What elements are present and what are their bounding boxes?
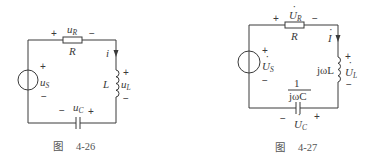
inductor-voltage-label: UL: [345, 66, 357, 80]
circuit-diagrams: + uS − + uR − R i L + uL − −: [0, 0, 372, 165]
source-minus: −: [41, 91, 47, 102]
resistor: + · UR − R: [273, 0, 318, 42]
figure-4-26: + uS − + uR − R i L + uL − −: [18, 23, 131, 152]
inductor: jωL + · UL −: [316, 51, 357, 90]
resistor-minus: −: [89, 28, 95, 39]
capacitor: − uC +: [59, 101, 94, 129]
inductor-impedance: jωL: [316, 64, 334, 76]
current-arrow-icon: [114, 50, 119, 57]
inductor-minus: −: [123, 93, 129, 104]
caption-prefix: 图: [53, 141, 63, 152]
inductor-plus: +: [123, 67, 129, 78]
inductor-coil-icon: [116, 70, 119, 97]
inductor-coil-icon: [338, 57, 341, 82]
resistor-plus: +: [273, 13, 279, 24]
source-label: US: [262, 60, 274, 74]
capacitor-voltage-label: uC: [73, 101, 85, 115]
capacitor-impedance-numerator: 1: [294, 77, 300, 89]
capacitor: 1 jωC − · UC +: [280, 77, 320, 132]
inductor-name: L: [102, 78, 109, 90]
current-indicator: i: [106, 47, 119, 59]
figure-4-27: + · US − + · UR − R · I jωL + · UL −: [238, 0, 357, 153]
capacitor-voltage-label: UC: [294, 118, 308, 132]
caption-number: 4-27: [298, 142, 317, 153]
caption-prefix: 图: [275, 142, 285, 153]
source-label: uS: [40, 76, 50, 90]
capacitor-minus: −: [280, 113, 286, 124]
capacitor-minus: −: [59, 105, 65, 116]
current-arrow-icon: [336, 35, 341, 42]
capacitor-impedance-denominator: jωC: [288, 90, 307, 102]
inductor-minus: −: [346, 79, 352, 90]
caption-number: 4-26: [76, 141, 95, 152]
voltage-source: + · US −: [238, 45, 274, 86]
resistor-icon: [63, 37, 82, 43]
capacitor-plus: +: [314, 111, 320, 122]
source-plus: +: [40, 61, 46, 72]
current-label: i: [106, 47, 109, 59]
resistor-minus: −: [312, 13, 318, 24]
resistor-name: R: [290, 30, 298, 42]
resistor-voltage-label: UR: [289, 9, 302, 23]
figure-caption: 图 4-26: [53, 141, 95, 152]
capacitor-plus: +: [88, 106, 94, 117]
resistor-plus: +: [51, 28, 57, 39]
inductor-voltage-label: uL: [121, 78, 131, 92]
resistor-voltage-label: uR: [67, 23, 78, 37]
voltage-source: + uS −: [18, 61, 50, 102]
source-minus: −: [262, 75, 268, 86]
resistor-name: R: [68, 45, 76, 57]
figure-caption: 图 4-27: [275, 142, 317, 153]
